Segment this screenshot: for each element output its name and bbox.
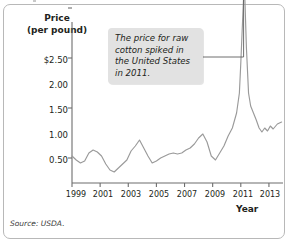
figure-container: States, 1999–2013 Price (per pound) $2.5… xyxy=(0,0,288,242)
y-tick-marks xyxy=(68,0,72,158)
callout-note: The price for raw cotton spiked in the U… xyxy=(108,28,203,84)
price-line-series xyxy=(72,0,282,172)
source-note: Source: USDA. xyxy=(10,219,65,228)
callout-leader-line xyxy=(203,0,244,57)
x-tick-marks xyxy=(72,183,269,187)
